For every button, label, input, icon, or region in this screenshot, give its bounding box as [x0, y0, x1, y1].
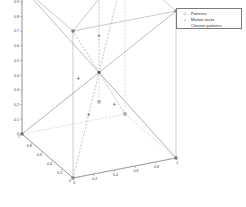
- axis-tick-label: 0.2: [14, 103, 19, 107]
- legend-label-chosen-patterns: Chosen patterns: [191, 23, 222, 29]
- axis-tick-label: 0.2: [92, 177, 97, 181]
- axis-tick-label: 0.4: [14, 74, 19, 78]
- axes-group: [22, 0, 176, 178]
- dashed-edge: [73, 73, 99, 179]
- plus-marker: [113, 103, 116, 106]
- axis-tick-label: 1: [18, 135, 20, 139]
- dot-marker: [98, 72, 100, 74]
- dashed-edge: [73, 31, 99, 73]
- solid-edge: [73, 11, 176, 31]
- dot-marker-icon: ·: [179, 23, 191, 29]
- legend-item-chosen-patterns: · Chosen patterns: [179, 23, 239, 29]
- axis-tick-label: 0.1: [14, 118, 19, 122]
- dashed-edge: [22, 114, 125, 134]
- axis-tick: [135, 166, 136, 168]
- axis-ticks-group: [20, 0, 177, 180]
- dot-marker: [175, 157, 177, 159]
- axis-tick-label: 0.8: [14, 15, 19, 19]
- axis-tick-label: 0.6: [134, 169, 139, 173]
- axis-tick-label: 0.8: [27, 144, 32, 148]
- plot-canvas: 00.10.20.30.40.50.60.70.80.9100.20.40.60…: [0, 0, 246, 207]
- axis-tick-label: 0.5: [14, 59, 19, 63]
- solid-edge-group: [22, 0, 176, 178]
- dashed-edge: [125, 114, 176, 158]
- axis-tick-label: 0: [73, 181, 75, 185]
- axis-tick-label: 0.6: [37, 153, 42, 157]
- axis-tick-label: 0.2: [57, 171, 62, 175]
- dot-marker: [72, 30, 74, 32]
- y-axis-spine: [22, 134, 73, 178]
- axis-tick-label: 0.7: [14, 29, 19, 33]
- axis-tick-label: 0.4: [47, 162, 52, 166]
- axis-tick-label: 0.9: [14, 0, 19, 4]
- dashed-edge: [73, 0, 125, 178]
- figure-3d-scatter-plot: 00.10.20.30.40.50.60.70.80.9100.20.40.60…: [0, 0, 246, 207]
- axis-tick-label: 0.6: [14, 44, 19, 48]
- axis-tick-label: 0.4: [113, 173, 118, 177]
- plus-marker: [77, 77, 80, 80]
- plus-marker: [87, 113, 90, 116]
- axis-tick-label: 0.8: [154, 165, 159, 169]
- plus-marker: [98, 34, 101, 37]
- solid-edge: [125, 0, 176, 11]
- axis-tick-label: 1: [176, 161, 178, 165]
- x-axis-spine: [73, 158, 176, 178]
- dot-marker: [21, 133, 23, 135]
- axis-tick: [114, 170, 115, 172]
- axis-tick: [155, 162, 156, 164]
- axis-tick: [94, 174, 95, 176]
- axis-tick-labels-group: 00.10.20.30.40.50.60.70.80.9100.20.40.60…: [14, 0, 178, 185]
- dashed-edge: [99, 0, 125, 73]
- dashed-edge-group: [22, 0, 176, 178]
- legend: □ Patterns + Motion tasks · Chosen patte…: [176, 8, 242, 29]
- axis-tick-label: 0: [69, 179, 71, 183]
- axis-tick-label: 0.3: [14, 88, 19, 92]
